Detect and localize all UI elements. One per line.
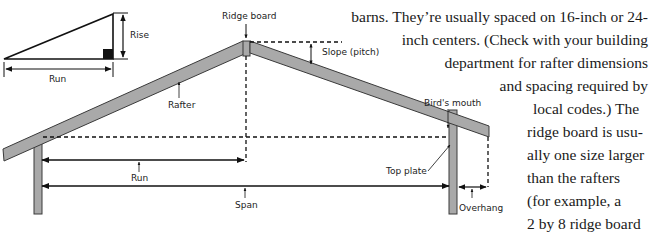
ridge-board <box>243 41 250 56</box>
rafter-label: Rafter <box>168 100 196 110</box>
text-line: 2 by 8 ridge board <box>518 212 644 235</box>
left-wall-stud <box>34 136 42 214</box>
right-angle-marker <box>103 49 113 59</box>
text-line: ridge board is usu- <box>518 120 644 143</box>
text-line: department for rafter dimensions <box>351 51 648 74</box>
run-label: Run <box>131 173 148 183</box>
span-label: Span <box>235 200 258 210</box>
body-paragraph-continued: local codes.) The ridge board is usu- al… <box>518 97 644 237</box>
overhang-label: Overhang <box>459 203 503 213</box>
rise-run-inset: Rise Run <box>4 13 149 84</box>
text-line: than the rafters <box>518 166 644 189</box>
top-plate-label: Top plate <box>385 166 427 176</box>
rise-label: Rise <box>130 30 149 40</box>
text-line: local codes.) The <box>518 97 644 120</box>
text-line: inch centers. (Check with your building <box>351 28 648 51</box>
text-line: for 2 by 6 rafters). <box>518 235 644 237</box>
body-paragraph: barns. They’re usually spaced on 16-inch… <box>351 5 648 97</box>
ridge-board-label: Ridge board <box>222 11 277 21</box>
text-line: barns. They’re usually spaced on 16-inch… <box>351 5 648 28</box>
text-line: ally one size larger <box>518 143 644 166</box>
birds-mouth-label: Bird's mouth <box>424 98 481 108</box>
inset-run-label: Run <box>49 74 66 84</box>
text-line: and spacing required by <box>351 74 648 97</box>
text-line: (for example, a <box>518 189 644 212</box>
slope-triangle <box>4 14 113 59</box>
